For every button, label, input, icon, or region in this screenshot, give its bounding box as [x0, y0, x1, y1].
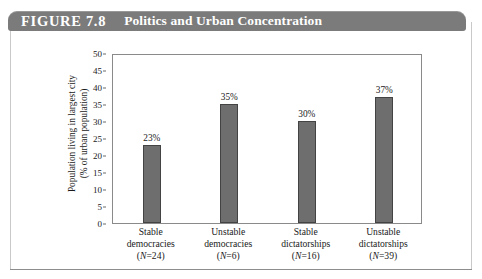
- figure-title-banner-inner: FIGURE 7.8 Politics and Urban Concentrat…: [8, 11, 466, 31]
- bar-group: 37%: [346, 55, 424, 223]
- bar-value-label: 37%: [376, 85, 393, 95]
- y-axis-tick-mark: [103, 190, 106, 191]
- bar-group: 30%: [268, 55, 346, 223]
- bar-value-label: 23%: [143, 133, 160, 143]
- y-axis-tick-label: 15: [93, 168, 102, 178]
- y-axis-tick-label: 30: [93, 117, 102, 127]
- bar[interactable]: [298, 121, 316, 223]
- y-axis-tick-mark: [103, 88, 106, 89]
- x-axis-category-label: Unstabledictatorships(N=39): [337, 226, 429, 261]
- figure-title-text: Politics and Urban Concentration: [124, 13, 322, 29]
- y-axis-tick-label: 20: [93, 151, 102, 161]
- bar[interactable]: [143, 145, 161, 223]
- y-axis-tick-label: 0: [98, 219, 103, 229]
- chart-area: Population living in largest city (% of …: [0, 40, 482, 265]
- y-axis-tick-mark: [103, 207, 106, 208]
- bar-value-label: 35%: [221, 92, 238, 102]
- y-axis-tick-mark: [103, 122, 106, 123]
- bar[interactable]: [375, 97, 393, 223]
- y-axis-tick-mark: [103, 156, 106, 157]
- y-axis-tick-label: 50: [93, 49, 102, 59]
- figure-bottom-rule: [10, 269, 472, 270]
- figure-title-banner: FIGURE 7.8 Politics and Urban Concentrat…: [8, 11, 466, 31]
- category-line-2: dictatorships: [337, 238, 429, 250]
- y-axis-tick-label: 35: [93, 100, 102, 110]
- bar-group: 23%: [113, 55, 191, 223]
- y-axis-title-line1: Population living in largest city: [67, 75, 77, 192]
- y-axis-tick-label: 45: [93, 66, 102, 76]
- y-axis-tick-label: 10: [93, 185, 102, 195]
- y-axis-tick-labels: 50454035302520151050: [86, 49, 106, 219]
- category-line-1: Unstable: [337, 226, 429, 238]
- y-axis-tick-mark: [103, 105, 106, 106]
- bars-layer: 23%35%30%37%: [113, 55, 421, 223]
- y-axis-tick-mark: [103, 54, 106, 55]
- y-axis-tick-label: 25: [93, 134, 102, 144]
- y-axis-tick-mark: [103, 173, 106, 174]
- y-axis-tick-mark: [103, 71, 106, 72]
- y-axis-tick-mark: [103, 139, 106, 140]
- y-axis-tick-label: 40: [93, 83, 102, 93]
- bar-group: 35%: [191, 55, 269, 223]
- figure-number-label: FIGURE 7.8: [21, 13, 106, 30]
- y-axis-tick-label: 5: [98, 202, 103, 212]
- bar[interactable]: [220, 104, 238, 223]
- bar-value-label: 30%: [298, 109, 315, 119]
- figure-root: FIGURE 7.8 Politics and Urban Concentrat…: [0, 0, 482, 279]
- x-axis-category-labels: Stabledemocracies(N=24)Unstabledemocraci…: [112, 226, 422, 266]
- y-axis-tick-mark: [103, 224, 106, 225]
- plot-frame: 23%35%30%37%: [112, 54, 422, 224]
- category-sample-size: (N=39): [337, 250, 429, 262]
